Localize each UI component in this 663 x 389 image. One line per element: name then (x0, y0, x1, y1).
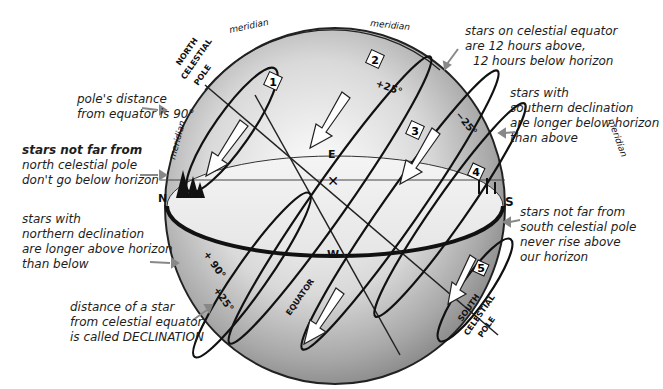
north-label: N (158, 192, 167, 205)
meridian-label-top-left: meridian (228, 17, 269, 35)
east-label: E (328, 148, 336, 161)
declination-definition-note: distance of a star from celestial equato… (70, 300, 204, 345)
observer-figure: ✕ (327, 173, 339, 189)
circumpolar-north-note: stars not far from north celestial pole … (22, 143, 159, 188)
svg-text:1: 1 (269, 76, 277, 89)
equator-stars-note: stars on celestial equator are 12 hours … (465, 24, 618, 69)
southern-declination-note: stars with southern declination are long… (510, 86, 659, 146)
svg-text:5: 5 (477, 262, 485, 275)
meridian-label-top: meridian (370, 18, 411, 32)
svg-text:2: 2 (371, 54, 379, 67)
northern-declination-note: stars with northern declination are long… (22, 212, 173, 272)
circumpolar-south-note: stars not far from south celestial pole … (520, 205, 637, 265)
pole-distance-note: pole's distance from equator is 90° (77, 92, 194, 122)
svg-text:3: 3 (411, 125, 419, 138)
svg-text:4: 4 (472, 166, 480, 179)
south-label: S (505, 195, 514, 209)
west-label: W (327, 248, 339, 261)
